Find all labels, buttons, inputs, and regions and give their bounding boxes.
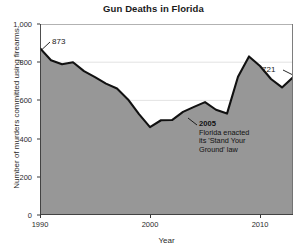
y-tick-label-1000: 1,000	[2, 20, 32, 29]
x-tick-label-2010: 2010	[240, 220, 280, 229]
point-label-721: 721	[262, 65, 275, 74]
y-tick-label-400: 400	[2, 134, 32, 143]
x-tick-mark-2000	[150, 215, 151, 218]
chart-container: Gun Deaths in Florida Number of murders …	[0, 0, 307, 250]
x-tick-label-2000: 2000	[130, 220, 170, 229]
y-tick-label-600: 600	[2, 96, 32, 105]
y-tick-label-800: 800	[2, 58, 32, 67]
annotation-line-3: Ground' law	[199, 146, 271, 155]
x-axis-label: Year	[40, 236, 293, 245]
x-tick-label-1990: 1990	[20, 220, 60, 229]
x-tick-mark-2010	[260, 215, 261, 218]
y-tick-label-200: 200	[2, 172, 32, 181]
annotation-stand-your-ground: 2005 Florida enacted its 'Stand Your Gro…	[199, 120, 271, 154]
y-tick-label-0: 0	[2, 211, 32, 220]
x-tick-mark-1990	[40, 215, 41, 218]
chart-title: Gun Deaths in Florida	[0, 3, 307, 14]
point-label-873: 873	[52, 37, 65, 46]
